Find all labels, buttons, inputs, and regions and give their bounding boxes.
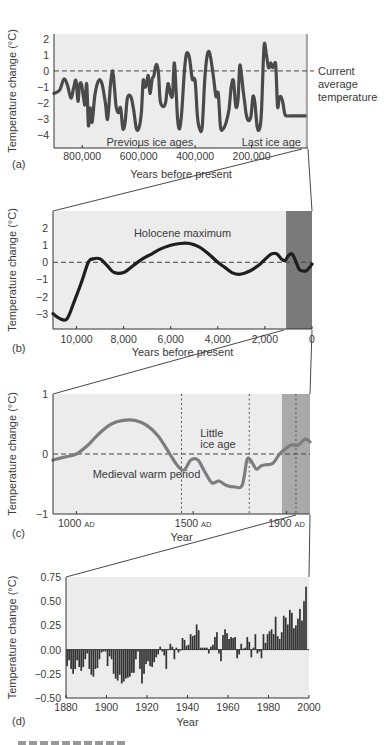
annotation-label: Last ice age	[242, 136, 301, 148]
temperature-bar	[210, 647, 212, 650]
temperature-bar	[257, 650, 259, 654]
temperature-bar	[186, 646, 188, 650]
temperature-bar	[107, 650, 109, 666]
temperature-bar	[188, 645, 190, 650]
temperature-bar	[155, 650, 157, 658]
temperature-bar	[289, 610, 291, 650]
panel-label: (a)	[12, 158, 25, 170]
temperature-bar	[141, 650, 143, 684]
temperature-bar	[269, 631, 271, 649]
highlight-region	[306, 34, 308, 148]
temperature-bar	[297, 619, 299, 650]
temperature-bar	[97, 650, 99, 668]
temperature-bar	[293, 628, 295, 649]
x-tick-label: 1920	[135, 701, 159, 713]
temperature-bar	[78, 650, 80, 667]
y-tick-label: −2	[37, 97, 49, 109]
y-tick-label: 0.50	[41, 595, 62, 607]
temperature-bar	[135, 650, 137, 660]
panel-label: (d)	[12, 715, 25, 727]
x-tick-label: 6,000	[158, 333, 184, 345]
panel-label: (b)	[12, 342, 25, 354]
y-axis-title: Temperature change (°C)	[6, 29, 18, 153]
x-axis-title: Year	[170, 531, 193, 543]
y-tick-label: −3	[37, 113, 49, 125]
climate-figure: Currentaveragetemperature210−1−2−3−4800,…	[0, 0, 386, 745]
x-tick-label: 1960	[216, 701, 240, 713]
y-tick-label: −3	[36, 308, 48, 320]
panel-a-chart: Currentaveragetemperature210−1−2−3−4800,…	[6, 29, 377, 180]
temperature-bar	[267, 634, 269, 649]
annotation-label: Medieval warm period	[93, 468, 201, 480]
temperature-bar	[165, 650, 167, 669]
temperature-bar	[111, 650, 113, 660]
temperature-bar	[232, 638, 234, 650]
temperature-bar	[72, 650, 74, 674]
temperature-bar	[218, 650, 220, 654]
temperature-bar	[279, 639, 281, 650]
temperature-bar	[115, 650, 117, 679]
temperature-bar	[196, 624, 198, 649]
temperature-bar	[123, 650, 125, 682]
plot-area	[54, 34, 308, 148]
panel-b-chart: 210−1−2−310,0008,0006,0004,0002,0000Holo…	[6, 208, 315, 358]
x-tick-label: 8,000	[110, 333, 136, 345]
temperature-bar	[295, 625, 297, 649]
y-tick-label: 0.00	[41, 644, 62, 656]
y-tick-label: −1	[36, 508, 48, 520]
temperature-bar	[281, 632, 283, 649]
temperature-bar	[76, 650, 78, 661]
temperature-bar	[212, 645, 214, 650]
temperature-bar	[131, 650, 133, 673]
temperature-bar	[84, 650, 86, 660]
temperature-bar	[147, 650, 149, 662]
zoom-connector-line	[309, 515, 310, 577]
y-tick-label: 1	[42, 239, 48, 251]
y-tick-label: 0.25	[41, 619, 62, 631]
x-tick-label: 2,000	[252, 333, 278, 345]
temperature-bar	[70, 650, 72, 669]
temperature-bar	[117, 650, 119, 681]
panel-c-chart: 10−11000 AD1500 AD1900 ADMedieval warm p…	[6, 388, 310, 543]
temperature-bar	[299, 609, 301, 650]
temperature-bar	[224, 629, 226, 649]
temperature-bar	[99, 650, 101, 660]
zoom-connector-line	[308, 149, 312, 211]
temperature-bar	[240, 644, 242, 650]
temperature-bar	[220, 650, 222, 662]
x-tick-label: 800,000	[63, 150, 101, 162]
reference-line-label: Current	[318, 65, 355, 77]
temperature-bar	[91, 650, 93, 675]
temperature-bar	[303, 601, 305, 649]
y-tick-label: 0	[42, 448, 48, 460]
temperature-bar	[157, 650, 159, 655]
x-tick-label: 400,000	[176, 150, 214, 162]
temperature-bar	[139, 650, 141, 669]
temperature-bar	[192, 636, 194, 650]
x-tick-label: 1980	[257, 701, 281, 713]
annotation-label: ice age	[200, 438, 235, 450]
temperature-bar	[74, 650, 76, 669]
y-tick-label: 0	[43, 65, 49, 77]
x-tick-label: 200,000	[233, 150, 271, 162]
temperature-bar	[121, 650, 123, 684]
x-tick-label: 2000	[297, 701, 321, 713]
temperature-bar	[255, 634, 257, 649]
temperature-bar	[216, 632, 218, 649]
temperature-bar	[273, 634, 275, 649]
reference-line-label: temperature	[318, 91, 377, 103]
reference-line-label: average	[318, 78, 358, 90]
temperature-bar	[194, 635, 196, 650]
y-axis-title: Temperature change (°C)	[6, 392, 18, 516]
y-tick-label: 0.75	[41, 571, 62, 583]
temperature-bar	[169, 644, 171, 650]
temperature-bar	[285, 618, 287, 650]
temperature-bar	[263, 634, 265, 649]
temperature-bar	[119, 650, 121, 675]
temperature-bar	[246, 637, 248, 650]
y-axis-title: Temperature change (°C)	[6, 208, 18, 332]
x-tick-label: 1900 AD	[268, 517, 305, 529]
temperature-bar	[305, 587, 307, 650]
annotation-label: Holocene maximum	[134, 227, 231, 239]
x-tick-label: 1000 AD	[58, 517, 95, 529]
